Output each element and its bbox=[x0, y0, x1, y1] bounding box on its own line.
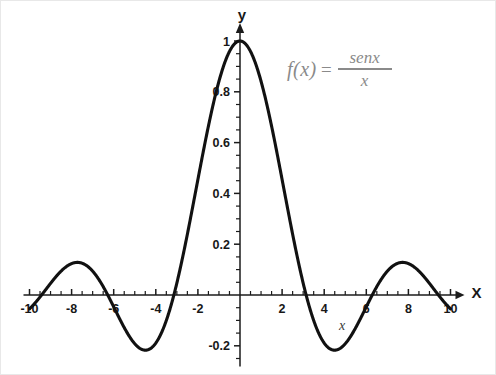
x-axis-name: X bbox=[471, 284, 481, 301]
chart-figure: -10-8-6-4-22468100.20.40.60.81-0.2 yXx f… bbox=[0, 0, 496, 375]
y-tick-label: 0.4 bbox=[213, 187, 230, 201]
y-tick-label: 1 bbox=[223, 35, 230, 49]
x-tick-label: 4 bbox=[321, 302, 328, 316]
formula-numerator: senx bbox=[343, 49, 385, 68]
formula-denominator: x bbox=[355, 70, 375, 90]
x-axis-arrow-icon bbox=[456, 291, 465, 299]
formula-lhs: f(x) bbox=[287, 58, 317, 81]
y-tick-label: 0.6 bbox=[213, 136, 230, 150]
y-axis-arrow-icon bbox=[236, 23, 244, 33]
x-tick-label: -8 bbox=[66, 302, 77, 316]
formula-fraction: senx x bbox=[338, 49, 392, 90]
x-tick-label: 8 bbox=[405, 302, 412, 316]
axes bbox=[24, 23, 465, 367]
y-tick-label: -0.2 bbox=[208, 339, 230, 353]
sinc-plot: -10-8-6-4-22468100.20.40.60.81-0.2 yXx bbox=[1, 1, 496, 375]
x-tick-label: -4 bbox=[150, 302, 161, 316]
x-tick-label: 2 bbox=[279, 302, 286, 316]
y-tick-label: 0.2 bbox=[213, 238, 230, 252]
y-axis-name: y bbox=[238, 6, 247, 23]
formula-annotation: f(x) = senx x bbox=[287, 49, 392, 90]
formula-equals: = bbox=[320, 59, 333, 81]
x-axis-title: x bbox=[338, 318, 346, 333]
x-tick-label: -2 bbox=[192, 302, 203, 316]
